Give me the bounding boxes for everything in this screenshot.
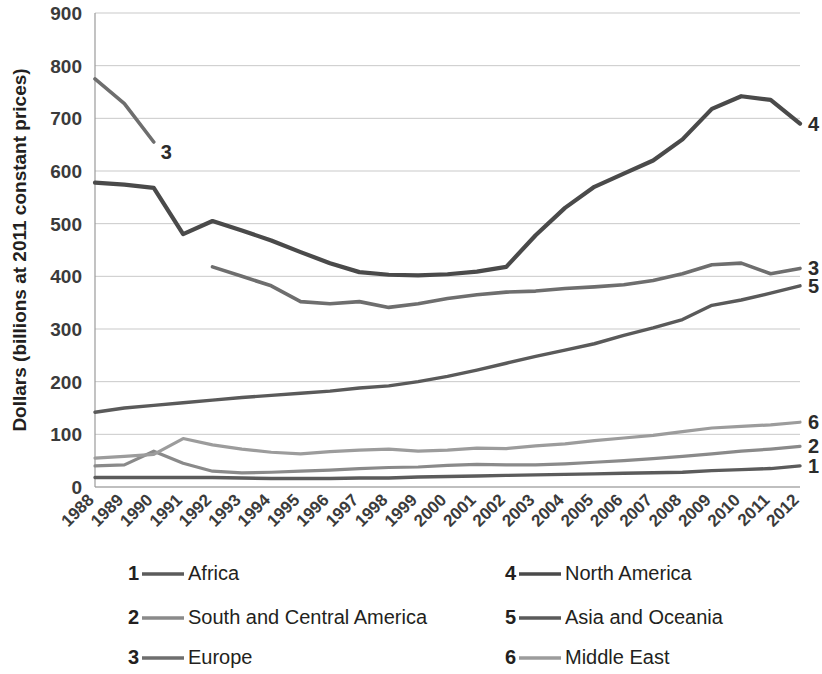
y-tick-label: 200: [50, 372, 82, 393]
legend-item-europe[interactable]: 3Europe: [128, 646, 253, 668]
legend: 1Africa2South and Central America3Europe…: [128, 562, 724, 668]
legend-label: Asia and Oceania: [565, 606, 724, 628]
legend-item-middle-east[interactable]: 6Middle East: [505, 646, 670, 668]
legend-key-number: 5: [505, 606, 516, 628]
x-tick-label: 1990: [116, 490, 156, 530]
legend-label: Africa: [188, 562, 240, 584]
x-tick-label: 1991: [146, 490, 186, 530]
series-line-middle-east: [95, 422, 800, 458]
x-tick-label: 1994: [234, 490, 275, 531]
series-end-label-1: 1: [808, 455, 819, 477]
x-tick-label: 2011: [734, 490, 774, 530]
x-tick-label: 1993: [205, 490, 245, 530]
chart-figure: 0100200300400500600700800900 19881989199…: [0, 0, 822, 674]
series-line-north-america: [95, 96, 800, 275]
x-tick-label: 2012: [763, 490, 803, 530]
series-line-asia-and-oceania: [95, 286, 800, 412]
y-tick-label: 400: [50, 266, 82, 287]
series-end-label-6: 6: [808, 411, 819, 433]
x-tick-label: 2008: [645, 490, 685, 530]
x-axis-tick-labels: 1988198919901991199219931994199519961997…: [58, 490, 803, 531]
legend-label: South and Central America: [188, 606, 428, 628]
x-tick-label: 2004: [528, 490, 569, 531]
y-axis-tick-labels: 0100200300400500600700800900: [50, 3, 82, 498]
x-tick-label: 2010: [704, 490, 744, 530]
x-tick-label: 1989: [87, 490, 127, 530]
y-tick-label: 900: [50, 3, 82, 24]
x-tick-label: 2006: [586, 490, 626, 530]
series-end-labels: 435621: [808, 113, 820, 477]
x-tick-label: 1999: [381, 490, 421, 530]
legend-key-number: 2: [128, 606, 139, 628]
y-axis-title-text: Dollars (billions at 2011 constant price…: [9, 68, 30, 431]
inline-annotation-3: 3: [161, 141, 172, 163]
legend-item-north-america[interactable]: 4North America: [505, 562, 693, 584]
legend-label: Europe: [188, 646, 253, 668]
line-chart: 0100200300400500600700800900 19881989199…: [0, 0, 822, 674]
x-tick-label: 1988: [58, 490, 98, 530]
x-tick-label: 1997: [322, 490, 362, 530]
axis-lines: [95, 13, 800, 487]
legend-key-number: 4: [505, 562, 517, 584]
series-end-label-4: 4: [808, 113, 820, 135]
x-tick-label: 2003: [498, 490, 538, 530]
inline-annotations: 3: [161, 141, 172, 163]
y-tick-label: 300: [50, 319, 82, 340]
x-tick-label: 1998: [351, 490, 391, 530]
data-series: [95, 79, 800, 479]
x-tick-label: 1992: [175, 490, 215, 530]
y-tick-label: 500: [50, 214, 82, 235]
legend-key-number: 1: [128, 562, 139, 584]
legend-key-number: 6: [505, 646, 516, 668]
y-tick-label: 600: [50, 161, 82, 182]
legend-label: North America: [565, 562, 693, 584]
y-tick-label: 700: [50, 108, 82, 129]
y-axis-title: Dollars (billions at 2011 constant price…: [9, 68, 30, 431]
x-tick-label: 2009: [675, 490, 715, 530]
x-tick-label: 1995: [263, 490, 303, 530]
y-tick-label: 800: [50, 56, 82, 77]
legend-item-south-and-central-america[interactable]: 2South and Central America: [128, 606, 428, 628]
legend-item-africa[interactable]: 1Africa: [128, 562, 240, 584]
gridlines: [95, 13, 800, 487]
x-tick-label: 2002: [469, 490, 509, 530]
legend-label: Middle East: [565, 646, 670, 668]
legend-key-number: 3: [128, 646, 139, 668]
legend-item-asia-and-oceania[interactable]: 5Asia and Oceania: [505, 606, 724, 628]
x-tick-label: 2000: [410, 490, 450, 530]
x-tick-label: 2007: [616, 490, 656, 530]
y-tick-label: 100: [50, 424, 82, 445]
x-tick-label: 1996: [293, 490, 333, 530]
x-tick-label: 2005: [557, 490, 597, 530]
series-end-label-5: 5: [808, 275, 819, 297]
x-tick-label: 2001: [440, 490, 480, 530]
